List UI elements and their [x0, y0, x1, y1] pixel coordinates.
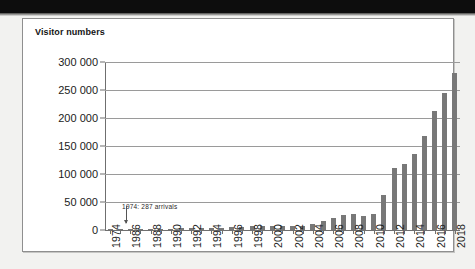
category-label-slot — [298, 236, 308, 269]
value-axis-tick-label: 300 000 — [58, 56, 98, 68]
down-arrow-icon — [126, 206, 127, 223]
category-label-slot: 1986 — [125, 236, 135, 269]
plot-area: 300 000250 000200 000150 000100 00050 00… — [105, 62, 460, 230]
category-label-slot: 2018 — [450, 236, 460, 269]
category-label-slot — [135, 236, 145, 269]
value-axis-tick-label: 50 000 — [64, 196, 98, 208]
value-axis-tick-label: 100 000 — [58, 168, 98, 180]
bar-slot — [419, 62, 429, 230]
category-label-slot: 1996 — [227, 236, 237, 269]
category-axis-label: 2018 — [455, 224, 467, 248]
bar — [422, 136, 427, 230]
bar-slot — [450, 62, 460, 230]
category-label-slot — [176, 236, 186, 269]
category-label-slot — [379, 236, 389, 269]
bar-slot — [288, 62, 298, 230]
bar-slot — [186, 62, 196, 230]
bar — [432, 111, 437, 230]
category-label-slot — [318, 236, 328, 269]
bar-slot — [277, 62, 287, 230]
bar-slot — [318, 62, 328, 230]
category-label-slot: 2002 — [288, 236, 298, 269]
bar-slot — [217, 62, 227, 230]
bar-slot — [338, 62, 348, 230]
bar-slot — [206, 62, 216, 230]
bar-slot — [389, 62, 399, 230]
category-label-slot — [237, 236, 247, 269]
bar-slot — [105, 62, 115, 230]
category-label-slot: 1988 — [146, 236, 156, 269]
category-label-slot: 1998 — [247, 236, 257, 269]
bar-slot — [409, 62, 419, 230]
bar-slot — [359, 62, 369, 230]
category-label-slot: 1994 — [206, 236, 216, 269]
bar-slot — [328, 62, 338, 230]
category-label-slot — [156, 236, 166, 269]
bar — [392, 168, 397, 230]
bar — [412, 154, 417, 230]
category-label-slot — [217, 236, 227, 269]
category-label-slot — [277, 236, 287, 269]
figure-page: Visitor numbers 300 000250 000200 000150… — [0, 0, 475, 269]
annotation-label: 1974: 287 arrivals — [122, 203, 177, 210]
category-label-slot — [338, 236, 348, 269]
category-label-slot: 2008 — [348, 236, 358, 269]
bar-slot — [257, 62, 267, 230]
category-label-slot — [196, 236, 206, 269]
bar-slot — [440, 62, 450, 230]
value-axis-tick-label: 150 000 — [58, 140, 98, 152]
value-axis-tick-label: 0 — [92, 224, 98, 236]
chart-title: Visitor numbers — [35, 27, 105, 37]
bar-slot — [308, 62, 318, 230]
bar-slot — [237, 62, 247, 230]
bar — [452, 73, 457, 230]
category-label-slot — [257, 236, 267, 269]
category-label-slot: 2016 — [430, 236, 440, 269]
category-label-slot — [115, 236, 125, 269]
category-label-slot: 1974 — [105, 236, 115, 269]
bar-slot — [399, 62, 409, 230]
chart-panel: Visitor numbers 300 000250 000200 000150… — [22, 18, 454, 252]
category-label-slot: 2004 — [308, 236, 318, 269]
bar — [442, 93, 447, 230]
bar-slot — [369, 62, 379, 230]
category-label-slot: 1990 — [166, 236, 176, 269]
category-label-slot: 2006 — [328, 236, 338, 269]
category-label-slot: 1992 — [186, 236, 196, 269]
scan-top-band — [0, 0, 475, 13]
category-label-slot — [440, 236, 450, 269]
category-label-slot — [419, 236, 429, 269]
category-label-slot: 2014 — [409, 236, 419, 269]
category-label-slot: 2000 — [267, 236, 277, 269]
category-label-slot — [399, 236, 409, 269]
bar-slot — [176, 62, 186, 230]
category-label-slot: 2012 — [389, 236, 399, 269]
value-axis-tick-label: 200 000 — [58, 112, 98, 124]
bar-slot — [430, 62, 440, 230]
bar-slot — [247, 62, 257, 230]
value-axis-tick-label: 250 000 — [58, 84, 98, 96]
scan-top-shade — [0, 13, 475, 16]
category-label-slot: 2010 — [369, 236, 379, 269]
bar-slot — [348, 62, 358, 230]
bar-slot — [267, 62, 277, 230]
bar-slot — [298, 62, 308, 230]
bar-slot — [227, 62, 237, 230]
bar — [402, 164, 407, 230]
category-label-slot — [359, 236, 369, 269]
bar-slot — [379, 62, 389, 230]
category-axis-labels: 1974198619881990199219941996199820002002… — [105, 236, 460, 269]
bar-slot — [196, 62, 206, 230]
